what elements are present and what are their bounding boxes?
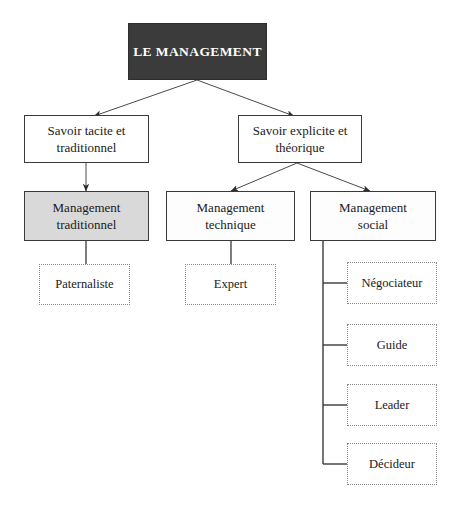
node-le-management-label: LE MANAGEMENT [129,43,266,61]
node-paternaliste: Paternaliste [39,264,130,305]
node-negociateur-label: Négociateur [357,275,426,292]
node-expert: Expert [185,264,276,305]
node-management-technique: Management technique [166,191,295,241]
node-management-technique-label: Management technique [193,199,269,233]
node-expert-label: Expert [210,276,251,293]
node-management-social: Management social [310,191,436,241]
node-management-traditionnel-label: Management traditionnel [49,199,125,233]
node-guide: Guide [347,324,437,366]
management-org-diagram: LE MANAGEMENT Savoir tacite et tradition… [0,0,454,507]
node-decideur: Décideur [347,443,437,485]
node-savoir-explicite-label: Savoir explicite et théorique [249,122,352,156]
node-leader-label: Leader [371,397,414,414]
node-negociateur: Négociateur [347,262,437,304]
node-savoir-tacite-label: Savoir tacite et traditionnel [44,122,130,156]
node-le-management: LE MANAGEMENT [128,23,267,80]
node-savoir-tacite: Savoir tacite et traditionnel [24,115,149,163]
node-management-social-label: Management social [335,199,411,233]
node-management-traditionnel: Management traditionnel [24,191,149,241]
node-leader: Leader [347,384,437,426]
node-savoir-explicite: Savoir explicite et théorique [238,115,362,163]
node-paternaliste-label: Paternaliste [51,276,117,293]
node-decideur-label: Décideur [365,456,419,473]
node-guide-label: Guide [373,337,412,354]
